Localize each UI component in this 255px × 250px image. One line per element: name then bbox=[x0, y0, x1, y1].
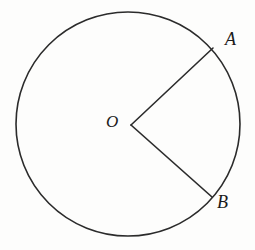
circle-diagram-canvas bbox=[0, 0, 255, 250]
point-label-b: B bbox=[217, 193, 228, 211]
radius-segment-oa bbox=[131, 48, 213, 125]
point-label-a: A bbox=[225, 30, 236, 48]
geometry-figure: O A B bbox=[0, 0, 255, 250]
point-label-o: O bbox=[106, 113, 118, 130]
circle-outline bbox=[16, 12, 240, 236]
radius-segment-ob bbox=[131, 125, 212, 197]
